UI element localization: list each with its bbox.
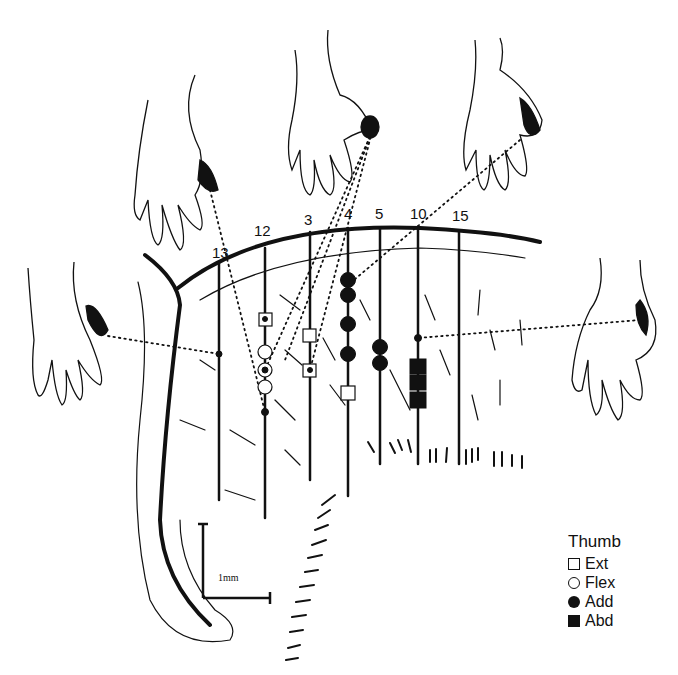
legend-item-add: Add xyxy=(568,592,621,611)
open-circle-icon xyxy=(568,577,580,589)
flex-site xyxy=(258,345,272,359)
site-point xyxy=(216,351,222,357)
track-label-3: 3 xyxy=(304,211,312,228)
add-site xyxy=(341,347,356,362)
filled-square-icon xyxy=(568,615,580,627)
scale-bar-label: 1mm xyxy=(218,572,239,583)
legend-item-flex: Flex xyxy=(568,573,621,592)
hand-upper-left-icon xyxy=(134,75,218,250)
legend-item-abd: Abd xyxy=(568,611,621,630)
flex-site xyxy=(258,380,272,394)
legend-title: Thumb xyxy=(568,532,621,552)
track-label-5: 5 xyxy=(375,205,383,222)
hand-right-icon xyxy=(572,258,656,420)
ext-site xyxy=(341,386,355,400)
abd-site xyxy=(410,392,426,408)
sulcus-boundary xyxy=(200,248,525,300)
hand-left-icon xyxy=(28,262,108,405)
track-label-13: 13 xyxy=(212,244,229,261)
hand-upper-right-icon xyxy=(464,38,542,190)
legend: Thumb Ext Flex Add Abd xyxy=(568,532,621,630)
abd-site xyxy=(410,359,426,374)
ext-site xyxy=(303,329,316,342)
track-label-15: 15 xyxy=(452,207,469,224)
track-label-12: 12 xyxy=(254,222,271,239)
legend-label: Flex xyxy=(585,573,615,592)
hand-top-center-icon xyxy=(289,30,380,195)
site-point xyxy=(415,335,422,342)
legend-item-ext: Ext xyxy=(568,554,621,573)
cortical-surface xyxy=(178,228,540,289)
filled-circle-icon xyxy=(568,596,580,608)
add-site xyxy=(373,340,388,355)
legend-label: Ext xyxy=(585,554,608,573)
track-label-4: 4 xyxy=(344,205,352,222)
central-sulcus xyxy=(145,255,210,625)
scale-bar xyxy=(198,524,270,604)
add-site xyxy=(341,273,356,288)
add-site xyxy=(341,288,356,303)
abd-site xyxy=(410,375,426,390)
legend-label: Add xyxy=(585,592,613,611)
add-site xyxy=(373,356,388,371)
add-site xyxy=(341,317,356,332)
legend-label: Abd xyxy=(585,611,613,630)
track-label-10: 10 xyxy=(410,205,427,222)
site-point xyxy=(262,409,269,416)
open-square-icon xyxy=(568,558,580,570)
